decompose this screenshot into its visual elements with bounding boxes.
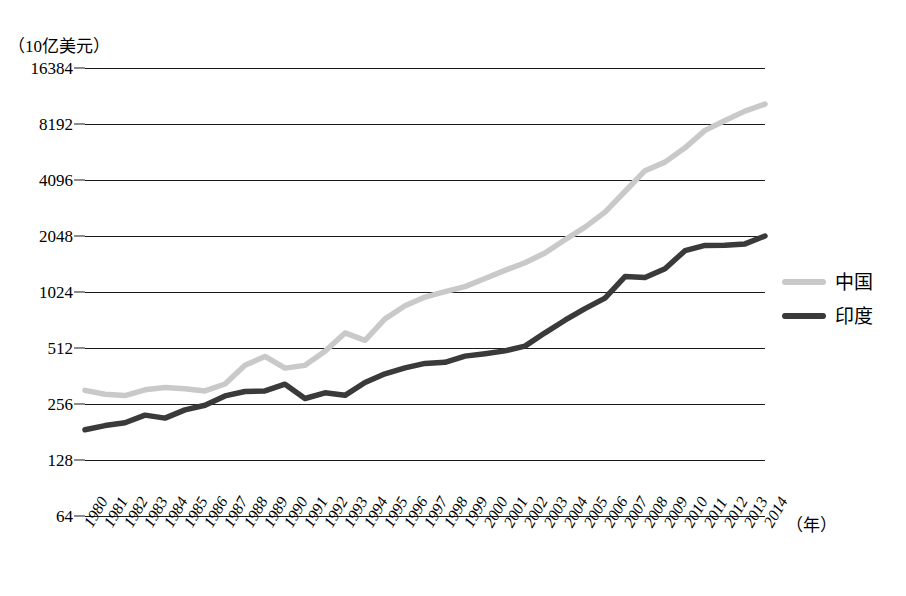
line-series-india [85,236,765,430]
x-axis-unit-label: （年） [786,511,837,536]
line-series-china [85,104,765,396]
y-axis-tick-mark [74,292,85,293]
y-axis-tick-label: 8192 [3,116,73,133]
y-axis-tick-mark [74,404,85,405]
legend-item-india: 印度 [782,299,873,333]
y-axis-tick-mark [74,68,85,69]
legend-swatch-china [782,279,826,285]
y-axis-tick-mark [74,180,85,181]
y-axis-tick-label: 256 [3,396,73,413]
legend-swatch-india [782,313,826,319]
y-axis-tick-label: 4096 [3,172,73,189]
y-axis-tick-label: 512 [3,340,73,357]
series-lines [85,68,765,516]
y-axis-tick-label: 2048 [3,228,73,245]
y-axis-tick-label: 1024 [3,284,73,301]
legend-label-china: 中国 [835,273,873,292]
plot-area: 64128256512102420484096819216384 [85,68,765,516]
y-axis-tick-mark [74,348,85,349]
y-axis-tick-mark [74,236,85,237]
chart-legend: 中国 印度 [782,265,873,333]
legend-item-china: 中国 [782,265,873,299]
y-axis-tick-label: 128 [3,452,73,469]
chart-figure: （10亿美元） 64128256512102420484096819216384… [0,0,906,596]
y-axis-tick-label: 64 [3,508,73,525]
legend-label-india: 印度 [835,307,873,326]
y-axis-tick-label: 16384 [3,60,73,77]
y-axis-tick-mark [74,124,85,125]
y-axis-unit-label: （10亿美元） [8,32,110,57]
y-axis-tick-mark [74,460,85,461]
